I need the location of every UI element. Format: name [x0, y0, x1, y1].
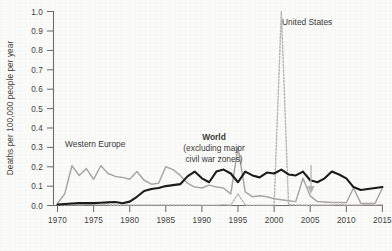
terrorism-deaths-line-chart: 1.0 0.9 0.8 0.7 0.6 0.5 0.4 0.3 0.2 0.1 … — [0, 0, 392, 251]
y-tick-label: 0.4 — [31, 124, 43, 133]
y-tick-label: 1.0 — [31, 8, 43, 17]
y-axis-ticks — [47, 12, 54, 206]
x-tick-label: 1990 — [192, 216, 211, 225]
series-label-world-sub-2: civil war zones) — [185, 154, 242, 164]
y-tick-label: 0.5 — [31, 105, 43, 114]
series-label-world: World — [202, 132, 226, 142]
x-tick-label: 1980 — [120, 216, 139, 225]
x-tick-label: 2005 — [301, 216, 320, 225]
y-tick-label: 0.3 — [31, 143, 43, 152]
x-tick-label: 1975 — [84, 216, 103, 225]
x-tick-label: 2015 — [373, 216, 392, 225]
x-tick-label: 1970 — [48, 216, 67, 225]
x-axis-ticks — [58, 206, 383, 213]
y-tick-label: 0.6 — [31, 85, 43, 94]
y-tick-label: 0.2 — [31, 163, 43, 172]
x-axis-tick-labels: 1970 1975 1980 1985 1990 1995 2000 2005 … — [48, 216, 392, 225]
y-tick-label: 0.9 — [31, 27, 43, 36]
series-label-western-europe: Western Europe — [65, 139, 126, 149]
y-tick-label: 0.1 — [31, 182, 43, 191]
y-axis-tick-labels: 1.0 0.9 0.8 0.7 0.6 0.5 0.4 0.3 0.2 0.1 … — [31, 8, 43, 211]
x-tick-label: 2000 — [265, 216, 284, 225]
y-axis-title: Deaths per 100,000 people per year — [6, 41, 15, 176]
x-tick-label: 1995 — [229, 216, 248, 225]
y-tick-label: 0.8 — [31, 46, 43, 55]
x-tick-label: 2010 — [337, 216, 356, 225]
series-line-united-states — [58, 12, 383, 206]
chart-svg: 1.0 0.9 0.8 0.7 0.6 0.5 0.4 0.3 0.2 0.1 … — [0, 0, 392, 251]
series-label-united-states: United States — [282, 17, 332, 27]
series-label-world-sub-1: (excluding major — [183, 143, 245, 153]
y-tick-label: 0.7 — [31, 66, 43, 75]
y-tick-label: 0.0 — [31, 202, 43, 211]
x-tick-label: 1985 — [156, 216, 175, 225]
